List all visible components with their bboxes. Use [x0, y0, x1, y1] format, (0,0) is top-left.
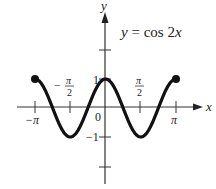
tick-label-neg-pi: −π — [25, 113, 40, 127]
tick-label-pi: π — [171, 113, 178, 127]
x-axis-label: x — [205, 99, 212, 114]
svg-text:π: π — [66, 75, 72, 86]
chart-title: y = cos 2x — [119, 24, 182, 40]
y-tick-label-1: 1 — [93, 73, 99, 87]
y-tick-label-neg-1: −1 — [86, 130, 99, 144]
cosine-graph: y x y = cos 2x −π π − π 2 π 2 1 −1 0 — [0, 0, 216, 189]
origin-label: 0 — [95, 110, 101, 124]
svg-text:2: 2 — [67, 87, 72, 98]
svg-text:2: 2 — [137, 87, 142, 98]
left-endpoint-dot — [31, 75, 39, 83]
y-axis-label: y — [99, 0, 107, 13]
tick-label-half-pi: π 2 — [135, 75, 144, 98]
tick-label-neg-half-pi: − π 2 — [54, 75, 74, 98]
svg-text:−: − — [54, 79, 60, 91]
x-axis-arrow-icon — [193, 104, 203, 111]
y-axis-arrow-icon — [102, 12, 109, 23]
right-endpoint-dot — [172, 75, 180, 83]
svg-text:π: π — [136, 75, 142, 86]
